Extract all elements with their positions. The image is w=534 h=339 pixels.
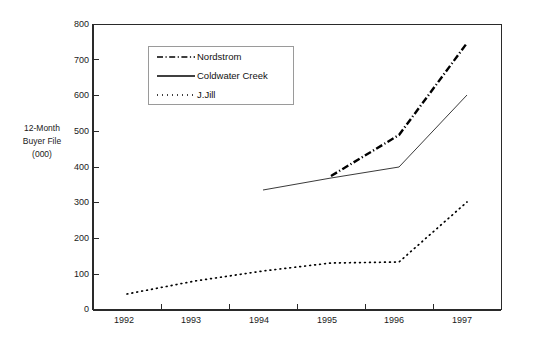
y-axis-ticks: [93, 24, 99, 310]
legend-swatch-dash-dot-icon: [156, 51, 196, 63]
series-line-coldwater-creek: [263, 95, 467, 190]
legend-item-coldwater-creek: Coldwater Creek: [149, 66, 293, 85]
chart-canvas: 12-Month Buyer File (000) 800 700 600 50…: [0, 0, 534, 339]
legend-item-jjill: J.Jill: [149, 85, 293, 104]
x-axis-ticks: [93, 304, 501, 310]
legend-label-jjill: J.Jill: [197, 89, 215, 100]
legend-item-nordstrom: Nordstrom: [149, 47, 293, 66]
legend-label-coldwater-creek: Coldwater Creek: [197, 70, 268, 81]
series-line-jjill: [127, 202, 467, 294]
legend-label-nordstrom: Nordstrom: [197, 51, 241, 62]
legend-swatch-dotted-icon: [156, 89, 196, 101]
series-line-nordstrom: [331, 43, 467, 176]
legend-swatch-solid-icon: [156, 70, 196, 82]
chart-legend: Nordstrom Coldwater Creek J.Jill: [148, 46, 294, 105]
